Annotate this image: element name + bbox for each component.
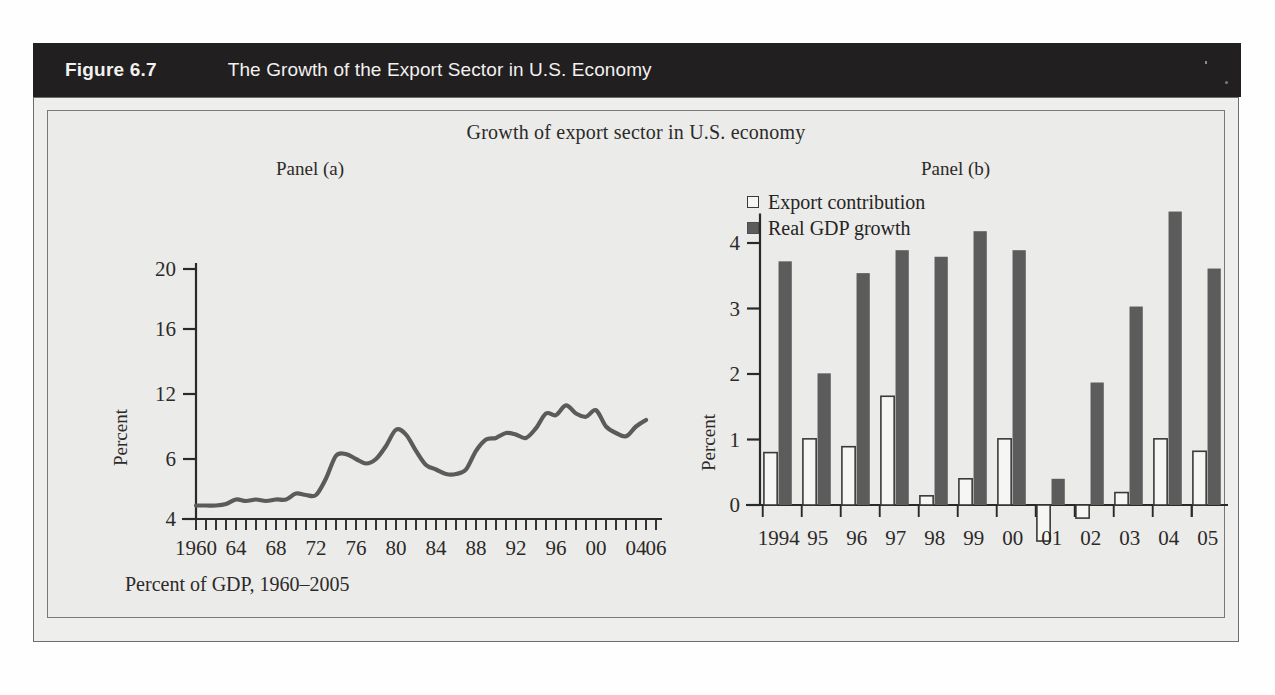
panel-b-bar-export-contribution [959, 479, 972, 505]
panel-b-label: Panel (b) [921, 158, 990, 180]
figure-container: Figure 6.7 The Growth of the Export Sect… [33, 43, 1241, 643]
panel-a-series-line [196, 405, 646, 505]
panel-b-xtick-label: 1994 [758, 526, 801, 550]
panel-b-bar-export-contribution [1154, 439, 1167, 505]
panel-b-xtick-label: 97 [885, 526, 906, 550]
panel-b-xtick-label: 05 [1197, 526, 1218, 550]
panel-a-chart: 461216201960646872768084889296000406 [108, 211, 668, 571]
panel-a-xtick-label: 80 [386, 536, 407, 560]
panel-b-xtick-label: 03 [1119, 526, 1140, 550]
panel-b-bar-export-contribution [920, 496, 933, 505]
panel-b-bar-export-contribution [764, 453, 777, 505]
panel-b-bar-real-gdp-growth [1052, 479, 1065, 505]
figure-outer-frame: Growth of export sector in U.S. economy … [33, 97, 1239, 642]
scan-speck-icon [1205, 61, 1207, 64]
panel-b-bar-export-contribution [803, 439, 816, 505]
panel-a-xtick-label: 64 [226, 536, 248, 560]
panel-a-xtick-label: 92 [506, 536, 527, 560]
panel-a-ytick-label: 12 [155, 382, 176, 406]
panel-b-chart: 0123419949596979899000102030405 [688, 211, 1233, 571]
panel-b-xtick-label: 02 [1080, 526, 1101, 550]
figure-title: The Growth of the Export Sector in U.S. … [228, 59, 652, 81]
panel-a-xtick-label: 76 [346, 536, 367, 560]
panel-a-ytick-label: 6 [166, 447, 177, 471]
panel-b-bar-export-contribution [1193, 451, 1206, 505]
panel-b-xtick-label: 95 [807, 526, 828, 550]
panel-a-xtick-label: 88 [466, 536, 487, 560]
panel-a-xtick-label: 96 [546, 536, 567, 560]
panel-b-ytick-label: 2 [730, 362, 741, 386]
panel-b-xtick-label: 04 [1158, 526, 1180, 550]
panel-b-xtick-label: 01 [1041, 526, 1062, 550]
panel-b-bar-real-gdp-growth [1013, 250, 1026, 505]
panel-b-bar-real-gdp-growth [779, 261, 792, 505]
panel-a-label: Panel (a) [276, 158, 344, 180]
panel-b-bar-export-contribution [998, 439, 1011, 505]
panel-a-xtick-label: 06 [646, 536, 667, 560]
panel-b-ytick-label: 4 [730, 231, 741, 255]
panel-a-xtick-label: 68 [266, 536, 287, 560]
panel-a-xtick-label: 72 [306, 536, 327, 560]
figure-number: Figure 6.7 [65, 59, 157, 81]
panel-b-xtick-label: 98 [924, 526, 945, 550]
panel-a-ytick-label: 4 [166, 507, 177, 531]
panel-b-bar-real-gdp-growth [935, 257, 948, 505]
panel-b-bar-export-contribution [842, 447, 855, 505]
scan-speck-icon [1225, 81, 1228, 84]
panel-a-xtick-label: 84 [426, 536, 448, 560]
panel-b-bar-export-contribution [881, 396, 894, 505]
panel-b-bar-real-gdp-growth [974, 231, 987, 505]
panel-a-xtick-label: 00 [586, 536, 607, 560]
panel-b-ytick-label: 0 [730, 493, 741, 517]
panel-a-caption: Percent of GDP, 1960–2005 [125, 573, 349, 596]
panel-b-ytick-label: 1 [730, 428, 741, 452]
panel-b-bar-real-gdp-growth [1091, 383, 1104, 505]
chart-title: Growth of export sector in U.S. economy [48, 121, 1224, 144]
panel-b-bar-real-gdp-growth [1169, 212, 1182, 505]
panel-b-bar-real-gdp-growth [1208, 269, 1221, 505]
panel-a-xtick-label: 1960 [175, 536, 217, 560]
panel-b-bar-real-gdp-growth [857, 273, 870, 505]
panel-b-bar-real-gdp-growth [896, 250, 909, 505]
panel-a-ytick-label: 20 [155, 257, 176, 281]
panel-b-xtick-label: 96 [846, 526, 867, 550]
panel-b-bar-export-contribution [1076, 505, 1089, 518]
panel-a-ytick-label: 16 [155, 317, 176, 341]
panel-b-xtick-label: 99 [963, 526, 984, 550]
figure-header: Figure 6.7 The Growth of the Export Sect… [33, 43, 1241, 97]
panel-a-xtick-label: 04 [626, 536, 648, 560]
figure-inner-frame: Growth of export sector in U.S. economy … [47, 110, 1225, 618]
open-square-icon [747, 196, 759, 208]
panel-b-bar-real-gdp-growth [1130, 307, 1143, 505]
panel-b-bar-export-contribution [1115, 493, 1128, 505]
panel-b-ytick-label: 3 [730, 297, 741, 321]
panel-b-bar-real-gdp-growth [818, 373, 831, 505]
panel-b-xtick-label: 00 [1002, 526, 1023, 550]
